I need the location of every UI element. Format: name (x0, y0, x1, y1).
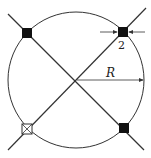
filled-square-marker-top-left (22, 28, 32, 38)
diagram-canvas: R 2 (0, 0, 151, 158)
open-cross-square-marker-bottom-left (22, 124, 32, 134)
dimension-label: 2 (118, 39, 125, 52)
radius-label: R (106, 66, 115, 80)
filled-square-marker-top-right (118, 27, 128, 37)
filled-square-marker-bottom-right (119, 123, 129, 133)
diagram-svg (0, 0, 151, 158)
